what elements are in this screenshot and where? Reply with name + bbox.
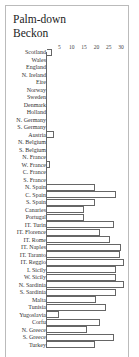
bar [47, 326, 87, 333]
bar [47, 266, 116, 273]
bar [47, 296, 96, 303]
bar [47, 319, 100, 326]
bar [47, 184, 95, 191]
chart-title-line-1: Palm-down [13, 12, 66, 26]
bar-row: Turkey [0, 341, 139, 349]
bar [47, 304, 106, 311]
category-label: Turkey [29, 341, 46, 349]
bar [47, 49, 52, 56]
bar [47, 206, 84, 213]
bar [47, 274, 116, 281]
bar [47, 236, 110, 243]
bar [47, 334, 114, 341]
bar [47, 214, 84, 221]
bar [47, 341, 95, 348]
bar [47, 244, 121, 251]
bar [47, 229, 100, 236]
bar [47, 251, 120, 258]
bar [47, 199, 95, 206]
bar [47, 281, 124, 288]
chart-title-line-2: Beckon [13, 26, 66, 40]
bar [47, 221, 114, 228]
bar [47, 191, 116, 198]
bar [47, 259, 124, 266]
bar [47, 131, 54, 138]
bar [47, 161, 50, 168]
chart-title: Palm-down Beckon [13, 12, 66, 40]
bar [47, 311, 59, 318]
bar [47, 289, 116, 296]
